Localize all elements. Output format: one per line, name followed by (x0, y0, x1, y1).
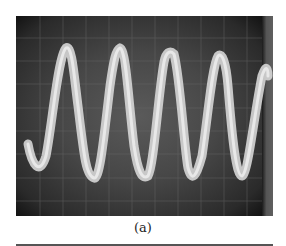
figure-caption: (a) (0, 220, 286, 235)
waveform-trace (16, 16, 273, 216)
oscilloscope-photo (16, 16, 273, 216)
